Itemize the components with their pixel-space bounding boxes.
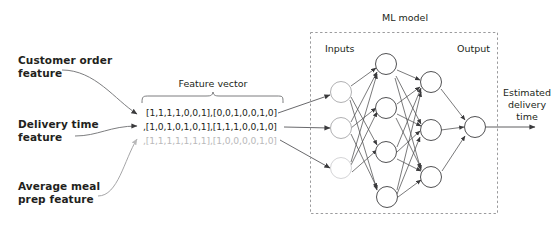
node-hidden1-4 xyxy=(377,187,398,208)
node-hidden2-1 xyxy=(421,72,442,93)
node-hidden2-3 xyxy=(421,167,442,188)
result-label-line3: time xyxy=(516,111,537,122)
edges-hidden2-to-output xyxy=(441,89,465,171)
feature-label-customer-order-line2: feature xyxy=(18,67,62,79)
feature-label-average-meal-prep: Average meal prep feature xyxy=(18,180,100,206)
node-hidden1-1 xyxy=(376,54,397,75)
feature-vector-row-1: [1,1,1,1,0,0,1],[0,0,1,0,0,1,0] xyxy=(146,107,277,119)
feature-label-customer-order: Customer order feature xyxy=(18,54,112,80)
diagram-canvas: Customer order feature Delivery time fea… xyxy=(0,0,554,237)
feature-label-delivery-time: Delivery time feature xyxy=(18,118,99,144)
feature-label-customer-order-line1: Customer order xyxy=(18,54,112,66)
feature-connector-average-meal-prep xyxy=(98,139,137,196)
feature-label-average-meal-prep-line2: prep feature xyxy=(18,193,94,205)
node-hidden1-2 xyxy=(376,98,397,119)
node-input-2 xyxy=(331,118,352,139)
node-output-1 xyxy=(465,117,486,138)
result-label-line1: Estimated xyxy=(503,87,551,98)
feature-label-delivery-time-line2: feature xyxy=(18,131,62,143)
ml-model-title: ML model xyxy=(355,12,455,24)
feature-vector-row-3: ,[1,1,1,1,1,1,1],[1,0,0,0,0,1,0] xyxy=(143,135,277,147)
network-nodes xyxy=(331,54,486,208)
result-label-line2: delivery xyxy=(508,99,546,110)
feature-vector-title: Feature vector xyxy=(163,78,263,90)
result-label: Estimated delivery time xyxy=(500,87,554,123)
feature-label-average-meal-prep-line1: Average meal xyxy=(18,180,100,192)
output-label: Output xyxy=(457,43,490,55)
vector-to-input-connectors xyxy=(278,95,330,168)
node-hidden2-2 xyxy=(421,120,442,141)
node-input-1 xyxy=(331,82,352,103)
edges-input-to-hidden1 xyxy=(350,68,377,190)
feature-vector-row-2: ,[1,0,1,0,1,0,1],[1,1,1,0,0,1,0] xyxy=(143,121,277,133)
node-hidden1-3 xyxy=(376,142,397,163)
edges-hidden1-to-hidden2 xyxy=(395,70,421,197)
node-input-3 xyxy=(331,158,352,179)
inputs-label: Inputs xyxy=(325,43,355,55)
feature-label-delivery-time-line1: Delivery time xyxy=(18,118,99,130)
feature-vector-brace xyxy=(142,92,283,103)
